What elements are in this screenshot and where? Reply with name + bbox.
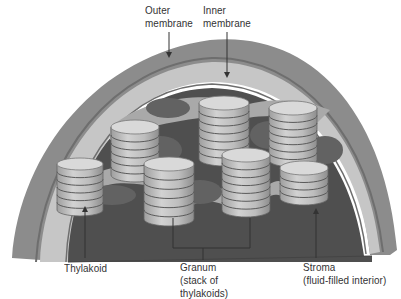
inner-membrane-label-line1: Inner xyxy=(203,4,251,17)
granum-label-line1: Granum xyxy=(180,261,228,274)
inner-membrane-label-line2: membrane xyxy=(203,17,251,30)
chloroplast-diagram xyxy=(0,0,401,299)
stroma-label-line1: Stroma xyxy=(303,261,386,274)
thylakoid-label: Thylakoid xyxy=(64,262,107,275)
thylakoid-top-disk xyxy=(111,120,159,134)
granum-label-line3: thylakoids) xyxy=(180,287,228,299)
stroma-label-line2: (fluid-filled interior) xyxy=(303,274,386,287)
thylakoid-label-line1: Thylakoid xyxy=(64,262,107,275)
thylakoid-top-disk xyxy=(280,161,328,175)
granum-center-right xyxy=(222,148,270,217)
thylakoid-top-disk xyxy=(222,148,270,162)
granum-top-right xyxy=(269,101,317,167)
granum-far-left xyxy=(57,158,103,216)
inner-membrane-label: Inner membrane xyxy=(203,4,251,30)
granum-label: Granum (stack of thylakoids) xyxy=(180,261,228,299)
granum-center-front xyxy=(144,157,194,226)
thylakoid-top-disk xyxy=(144,157,194,171)
outer-membrane-label-line2: membrane xyxy=(145,17,193,30)
outer-membrane-label-line1: Outer xyxy=(145,4,193,17)
thylakoid-top-disk xyxy=(57,158,103,170)
granum-label-line2: (stack of xyxy=(180,274,228,287)
granum-right-short xyxy=(280,161,328,205)
stroma-label: Stroma (fluid-filled interior) xyxy=(303,261,386,287)
thylakoid-top-disk xyxy=(269,101,317,115)
thylakoid-top-disk xyxy=(199,96,249,110)
outer-membrane-label: Outer membrane xyxy=(145,4,193,30)
